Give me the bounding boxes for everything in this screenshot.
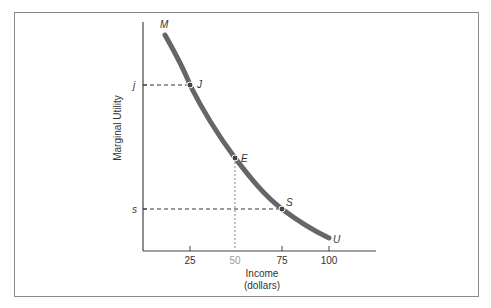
- x-tick-label-25: 25: [184, 255, 196, 266]
- label-e: E: [241, 153, 248, 164]
- x-axis-title: Income: [246, 268, 279, 279]
- label-m: M: [160, 19, 169, 30]
- y-axis-title: Marginal Utility: [112, 95, 123, 161]
- x-axis-unit: (dollars): [244, 280, 280, 291]
- x-tick-label-50: 50: [229, 255, 241, 266]
- x-tick-label-100: 100: [321, 255, 338, 266]
- point-j: [187, 82, 193, 88]
- y-tick-label-j: j: [131, 80, 136, 91]
- label-j: J: [196, 79, 203, 90]
- marginal-utility-chart: M J E S U j s 25 50 75 100 Income (dolla…: [0, 0, 491, 308]
- label-u: U: [333, 234, 341, 245]
- y-tick-label-s: s: [132, 204, 137, 215]
- label-s: S: [286, 197, 293, 208]
- marginal-utility-curve: [165, 35, 329, 238]
- point-e: [232, 155, 238, 161]
- point-s: [279, 206, 285, 212]
- x-tick-label-75: 75: [276, 255, 288, 266]
